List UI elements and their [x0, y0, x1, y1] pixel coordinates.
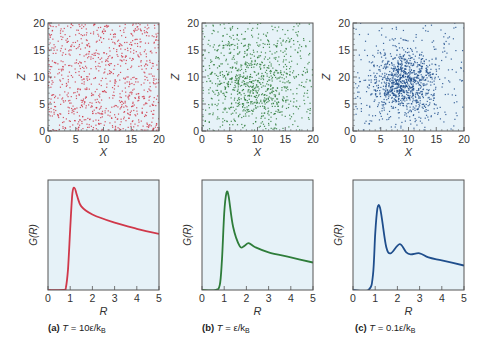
scatter-plot-c: 0510152005201520XZ: [320, 17, 470, 159]
x-tick-label: 5: [461, 292, 467, 304]
x-tick-label: 3: [112, 292, 118, 304]
y-axis-label: Z: [169, 72, 181, 81]
y-tick-label: 20: [187, 17, 199, 29]
caption-equation: = 10ε/k: [68, 322, 101, 333]
rdf-plot-a: 012345RG(R): [28, 180, 162, 317]
y-tick-label: 10: [33, 71, 45, 83]
figure: 0510152005101520XZ0510152005101520XZ0510…: [0, 0, 491, 356]
x-tick-label: 5: [73, 133, 79, 145]
y-axis-label: G(R): [333, 224, 344, 246]
x-tick-label: 4: [134, 292, 140, 304]
x-tick-label: 20: [153, 133, 165, 145]
y-tick-label: 15: [187, 44, 199, 56]
x-tick-label: 2: [394, 292, 400, 304]
y-tick-label: 20: [338, 71, 350, 83]
x-tick-label: 10: [252, 133, 264, 145]
y-axis-label: Z: [15, 72, 27, 81]
x-tick-label: 0: [199, 292, 205, 304]
x-tick-label: 20: [458, 133, 470, 145]
caption-label: (a): [48, 322, 60, 333]
x-tick-label: 0: [350, 133, 356, 145]
caption-label: (c): [355, 322, 367, 333]
caption-b: (b) T = ε/kB: [202, 322, 250, 334]
y-axis-label: G(R): [28, 224, 39, 246]
y-tick-label: 15: [33, 44, 45, 56]
x-tick-label: 0: [45, 133, 51, 145]
x-tick-label: 1: [67, 292, 73, 304]
x-tick-label: 5: [227, 133, 233, 145]
x-axis-label: R: [405, 305, 413, 317]
x-tick-label: 0: [45, 292, 51, 304]
y-tick-label: 15: [338, 44, 350, 56]
x-tick-label: 5: [310, 292, 316, 304]
rdf-plot-b: 012345RG(R): [182, 180, 316, 317]
x-tick-label: 20: [307, 133, 319, 145]
x-tick-label: 0: [350, 292, 356, 304]
x-axis-label: R: [254, 305, 262, 317]
y-tick-label: 0: [344, 125, 350, 137]
y-tick-label: 5: [344, 98, 350, 110]
y-axis-label: Z: [320, 72, 332, 81]
x-tick-label: 1: [221, 292, 227, 304]
x-tick-label: 0: [199, 133, 205, 145]
x-tick-label: 2: [89, 292, 95, 304]
scatter-plot-b: 0510152005101520XZ: [169, 17, 319, 159]
rdf-plot-c: 012345RG(R): [333, 180, 467, 317]
y-tick-label: 0: [193, 125, 199, 137]
x-tick-label: 15: [125, 133, 137, 145]
x-tick-label: 15: [430, 133, 442, 145]
x-tick-label: 4: [439, 292, 445, 304]
y-tick-label: 20: [338, 17, 350, 29]
caption-equation: = 0.1ε/k: [375, 322, 411, 333]
x-tick-label: 3: [266, 292, 272, 304]
x-tick-label: 1: [372, 292, 378, 304]
caption-subscript: B: [245, 327, 250, 334]
caption-equation: = ε/k: [223, 322, 245, 333]
y-tick-label: 5: [39, 98, 45, 110]
y-tick-label: 0: [39, 125, 45, 137]
x-axis-label: X: [99, 146, 108, 158]
caption-label: (b): [202, 322, 214, 333]
x-tick-label: 10: [98, 133, 110, 145]
x-axis-label: X: [253, 146, 262, 158]
y-tick-label: 20: [33, 17, 45, 29]
y-axis-label: G(R): [182, 224, 193, 246]
x-tick-label: 2: [243, 292, 249, 304]
x-tick-label: 10: [403, 133, 415, 145]
y-tick-label: 10: [187, 71, 199, 83]
caption-subscript: B: [101, 327, 106, 334]
x-tick-label: 15: [279, 133, 291, 145]
x-tick-label: 5: [156, 292, 162, 304]
x-tick-label: 3: [417, 292, 423, 304]
x-tick-label: 5: [378, 133, 384, 145]
caption-c: (c) T = 0.1ε/kB: [355, 322, 415, 334]
caption-a: (a) T = 10ε/kB: [48, 322, 106, 334]
y-tick-label: 5: [193, 98, 199, 110]
caption-subscript: B: [411, 327, 416, 334]
x-tick-label: 4: [288, 292, 294, 304]
x-axis-label: R: [100, 305, 108, 317]
figure-canvas: 0510152005101520XZ0510152005101520XZ0510…: [0, 0, 491, 356]
x-axis-label: X: [404, 146, 413, 158]
scatter-plot-a: 0510152005101520XZ: [15, 17, 165, 159]
